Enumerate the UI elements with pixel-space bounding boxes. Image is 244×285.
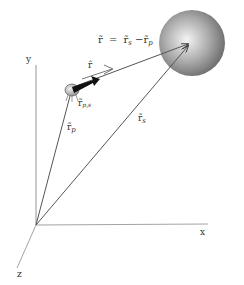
y-axis-label: y xyxy=(25,54,32,64)
z-axis xyxy=(17,225,36,268)
r-ps-label: r̃p,s xyxy=(78,98,91,109)
sphere xyxy=(159,10,225,76)
r-hat-label: r̂ xyxy=(88,60,93,70)
vector-diagram: y x z r̃ = r̃s −r̃p r̂ r̃p,s r̃p r̃s xyxy=(0,0,244,285)
r-s-label: r̃s xyxy=(138,113,146,125)
particle xyxy=(65,76,100,102)
x-axis-label: x xyxy=(200,227,205,237)
r-p-label: r̃p xyxy=(67,122,76,134)
bold-arrow-icon xyxy=(72,76,100,93)
coordinate-axes: y x z xyxy=(17,54,208,279)
z-axis-label: z xyxy=(17,269,22,279)
svg-text:r̃ = r̃s −r̃: r̃ = r̃s −r̃p xyxy=(98,34,153,47)
equation-label: r̃ = r̃s −r̃p xyxy=(98,34,153,47)
unit-vector-r-hat xyxy=(82,65,113,79)
x-axis xyxy=(36,224,208,225)
